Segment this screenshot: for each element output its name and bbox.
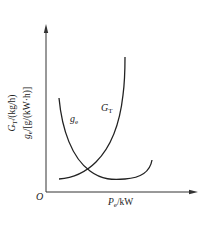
y-label2-unit: /[g/(kW·h)] [22,87,32,131]
curve-gt [59,57,125,179]
curve-label-ge-subscript: e [75,118,78,126]
y-label1-subscript: T [11,120,19,124]
y-axis-label-line2: ge/[g/(kW·h)] [21,70,36,156]
y-label2-symbol: g [22,134,32,139]
y-axis-label-line1: GT/(kg/h) [6,70,21,156]
y-label2-subscript: e [26,131,34,134]
y-label1-unit: /(kg/h) [7,95,17,121]
x-label-unit: /kW [117,197,133,207]
curve-label-ge: ge [70,114,78,126]
curve-label-gt-subscript: T [108,107,112,115]
y-label1-symbol: G [7,125,17,132]
curve-label-gt: GT [101,103,113,115]
y-axis-arrow-icon [44,24,48,33]
y-axis-label: GT/(kg/h) ge/[g/(kW·h)] [6,70,38,156]
x-axis-arrow-icon [189,190,198,194]
x-axis-label: Pe/kW [108,198,133,209]
origin-label: O [36,192,43,202]
